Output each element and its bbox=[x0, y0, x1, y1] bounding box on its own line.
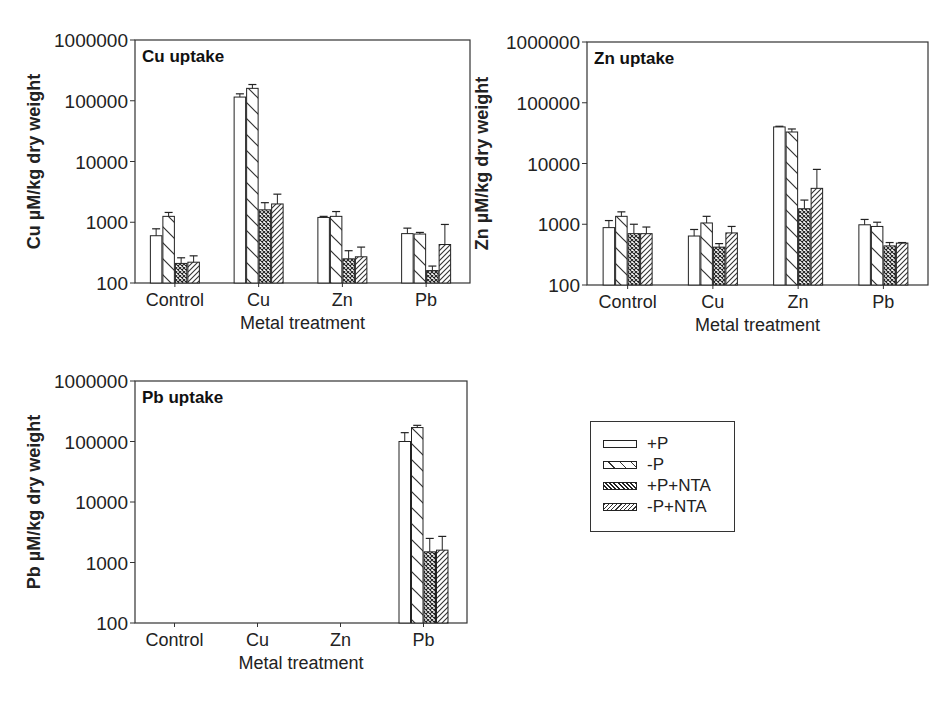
legend-item-minus-p: -P bbox=[603, 455, 664, 475]
chart-title: Cu uptake bbox=[142, 47, 224, 66]
bar bbox=[628, 234, 640, 285]
bar bbox=[786, 132, 798, 285]
chart-title: Zn uptake bbox=[594, 49, 674, 68]
legend-item-plus-p: +P bbox=[603, 434, 668, 454]
y-tick-label: 10000 bbox=[75, 492, 128, 513]
x-tick-label: Pb bbox=[872, 292, 894, 312]
x-tick-label: Control bbox=[599, 292, 657, 312]
y-tick-label: 10000 bbox=[75, 152, 128, 173]
y-axis-label: Zn µM/kg dry weight bbox=[472, 77, 492, 250]
x-tick-label: Zn bbox=[332, 290, 353, 310]
crosshatch-swatch-icon bbox=[603, 482, 637, 490]
legend-label: +P bbox=[647, 434, 668, 454]
bar bbox=[259, 210, 271, 283]
x-axis-label: Metal treatment bbox=[695, 315, 820, 335]
chart-title: Pb uptake bbox=[142, 388, 223, 407]
bar bbox=[412, 428, 424, 623]
legend-label: -P+NTA bbox=[647, 497, 707, 517]
bar bbox=[272, 204, 284, 283]
bar bbox=[726, 233, 738, 285]
bar bbox=[175, 263, 187, 283]
bar bbox=[355, 257, 367, 283]
bar bbox=[188, 262, 200, 283]
bar bbox=[799, 209, 811, 285]
bar bbox=[424, 552, 436, 623]
bar bbox=[234, 97, 246, 283]
y-tick-label: 1000 bbox=[86, 553, 128, 574]
y-tick-label: 1000 bbox=[86, 212, 128, 233]
bar bbox=[150, 236, 162, 283]
x-tick-label: Cu bbox=[247, 290, 270, 310]
bar bbox=[439, 245, 451, 283]
legend: +P -P +P+NTA -P+NTA bbox=[590, 421, 735, 532]
y-tick-label: 1000000 bbox=[506, 32, 580, 53]
legend-item-plus-p-nta: +P+NTA bbox=[603, 476, 711, 496]
bar bbox=[859, 225, 871, 285]
x-tick-label: Pb bbox=[415, 290, 437, 310]
bar bbox=[330, 216, 342, 283]
y-tick-label: 100 bbox=[96, 273, 128, 294]
x-tick-label: Zn bbox=[330, 630, 351, 650]
bar bbox=[247, 88, 259, 283]
y-axis-label: Cu µM/kg dry weight bbox=[24, 74, 44, 249]
bar bbox=[811, 188, 823, 285]
slash-hatch-swatch-icon bbox=[603, 503, 637, 511]
y-tick-label: 1000000 bbox=[54, 371, 128, 392]
x-axis-label: Metal treatment bbox=[238, 653, 363, 673]
y-tick-label: 1000000 bbox=[54, 30, 128, 51]
bar bbox=[318, 217, 330, 283]
x-tick-label: Pb bbox=[412, 630, 434, 650]
chart-cu-uptake: 1000000100000100001000100Cu µM/kg dry we… bbox=[24, 30, 470, 333]
bar bbox=[688, 236, 700, 285]
bar bbox=[774, 127, 786, 285]
bar bbox=[399, 442, 411, 624]
bar bbox=[884, 246, 896, 285]
chart-zn-uptake: 1000000100000100001000100Zn µM/kg dry we… bbox=[472, 32, 928, 335]
y-tick-label: 100000 bbox=[517, 93, 580, 114]
x-axis-label: Metal treatment bbox=[240, 313, 365, 333]
bar bbox=[414, 234, 426, 283]
bar bbox=[701, 223, 713, 285]
y-axis-label: Pb µM/kg dry weight bbox=[24, 415, 44, 589]
bar bbox=[402, 234, 414, 283]
figure-canvas: 1000000100000100001000100Cu µM/kg dry we… bbox=[0, 0, 942, 703]
chart-pb-uptake: 1000000100000100001000100Pb µM/kg dry we… bbox=[24, 371, 467, 673]
legend-label: -P bbox=[647, 455, 664, 475]
x-tick-label: Control bbox=[146, 290, 204, 310]
bar bbox=[437, 550, 449, 623]
legend-label: +P+NTA bbox=[647, 476, 711, 496]
bar bbox=[871, 226, 883, 285]
x-tick-label: Zn bbox=[788, 292, 809, 312]
x-tick-label: Control bbox=[145, 630, 203, 650]
bar bbox=[343, 259, 355, 283]
x-tick-label: Cu bbox=[246, 630, 269, 650]
y-tick-label: 100000 bbox=[65, 91, 128, 112]
bar bbox=[641, 234, 653, 285]
y-tick-label: 100000 bbox=[65, 432, 128, 453]
backslash-hatch-swatch-icon bbox=[603, 461, 637, 469]
bar bbox=[163, 216, 175, 283]
bar bbox=[896, 243, 908, 285]
y-tick-label: 1000 bbox=[538, 214, 580, 235]
bar bbox=[713, 247, 725, 285]
y-tick-label: 10000 bbox=[527, 154, 580, 175]
open-swatch-icon bbox=[603, 440, 637, 448]
y-tick-label: 100 bbox=[548, 275, 580, 296]
bar bbox=[616, 216, 628, 285]
y-tick-label: 100 bbox=[96, 613, 128, 634]
legend-item-minus-p-nta: -P+NTA bbox=[603, 497, 707, 517]
bar bbox=[427, 271, 439, 283]
bar bbox=[603, 228, 615, 285]
x-tick-label: Cu bbox=[701, 292, 724, 312]
